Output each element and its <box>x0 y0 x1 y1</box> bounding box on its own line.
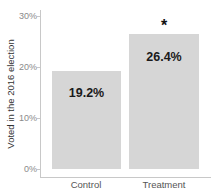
y-tick-10 <box>37 118 40 119</box>
y-tick-label-30: 30% <box>0 11 37 21</box>
y-axis-line <box>40 10 41 178</box>
bar-value-label-control: 19.2% <box>52 86 121 100</box>
y-tick-label-20: 20% <box>0 62 37 72</box>
y-tick-30 <box>37 16 40 17</box>
y-tick-label-10: 10% <box>0 113 37 123</box>
x-tick-label-control: Control <box>46 179 126 190</box>
y-tick-0 <box>37 169 40 170</box>
bar-treatment: 26.4% <box>129 34 199 169</box>
y-tick-20 <box>37 67 40 68</box>
bar-control: 19.2% <box>52 71 121 169</box>
significance-asterisk: * <box>154 17 174 35</box>
bar-value-label-treatment: 26.4% <box>129 50 199 64</box>
bar-chart: Voted in the 2016 election 30% 20% 10% 0… <box>0 0 218 196</box>
y-axis-title: Voted in the 2016 election <box>5 39 16 148</box>
x-axis-line <box>40 177 211 178</box>
y-tick-label-0: 0% <box>0 164 37 174</box>
x-tick-label-treatment: Treatment <box>124 179 204 190</box>
